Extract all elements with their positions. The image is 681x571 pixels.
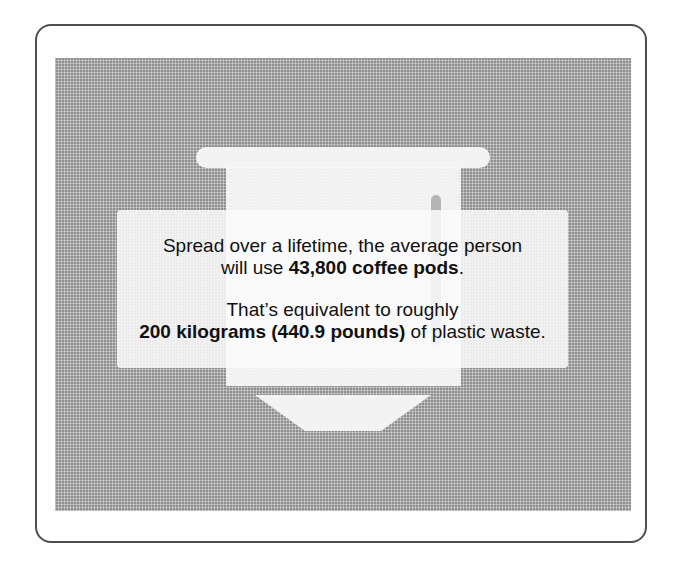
stat-line-4: 200 kilograms (440.9 pounds) of plastic …	[139, 321, 546, 343]
waste-weight: 200 kilograms (440.9 pounds)	[139, 321, 405, 342]
stat-line-1: Spread over a lifetime, the average pers…	[163, 235, 522, 257]
pod-base-shape	[255, 395, 431, 431]
pod-lid-shape	[196, 147, 490, 168]
stat-line-3: That’s equivalent to roughly	[226, 299, 458, 321]
pod-count: 43,800 coffee pods	[289, 257, 459, 278]
stat-line-2: will use 43,800 coffee pods.	[221, 257, 464, 279]
stat-text-card: Spread over a lifetime, the average pers…	[117, 210, 568, 368]
